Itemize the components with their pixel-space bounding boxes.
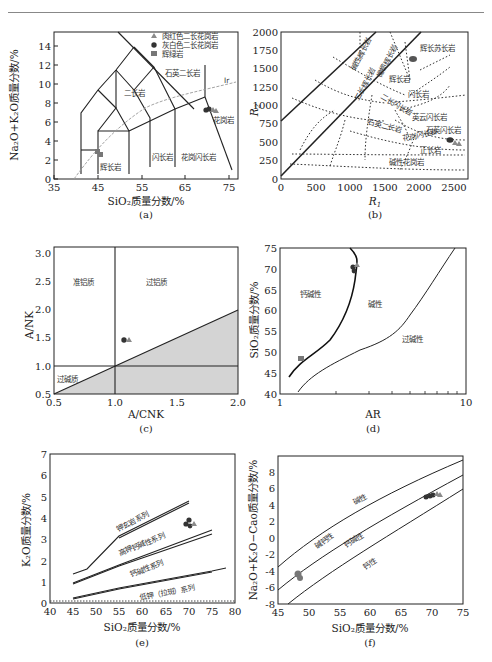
field-label: 橄榄辉长岩 [374, 42, 400, 78]
x-tick: 50 [303, 607, 316, 618]
data-points-a [95, 106, 219, 157]
y-tick: 3 [41, 534, 47, 545]
x-tick: 0 [278, 182, 284, 193]
plot-frame-d [280, 248, 466, 394]
panel-c: 0.5 1.0 1.5 2.0 0.5 1.0 1.5 2.0 2.5 3.0 … [23, 247, 246, 434]
y-tick: 2.5 [35, 276, 51, 287]
x-axis-label: R1 [368, 195, 381, 209]
field-label: 闪长岩 [408, 89, 430, 99]
panel-f: 45 50 55 60 65 70 75 -8 -6 -4 -2 0 2 4 6… [247, 456, 469, 648]
y-tick: 7 [41, 449, 47, 460]
panel-caption: (a) [139, 209, 153, 220]
field-label: 花岗闪长岩 [401, 126, 438, 143]
x-tick: 70 [426, 607, 439, 618]
y-tick: 55 [264, 326, 277, 337]
y-tick: 65 [264, 285, 277, 296]
field-label: Ir [224, 76, 230, 85]
y-tick: 1.5 [35, 332, 51, 343]
field-label: 辉长岩 [389, 74, 411, 84]
y-tick: 1.0 [35, 361, 51, 372]
y-tick: 0.5 [35, 389, 51, 400]
field-label: 钙碱性 [300, 289, 322, 299]
y-tick: 500 [259, 137, 278, 148]
field-label: 过碱性 [402, 334, 424, 344]
y-tick: -6 [265, 582, 275, 593]
x-tick: 1000 [337, 182, 362, 193]
plot-frame-f [278, 456, 463, 604]
figure-panels: 35 45 55 65 75 0 2 4 6 8 10 12 14 [0, 0, 492, 662]
y-tick: 2000 [253, 27, 278, 38]
x-tick: 65 [179, 182, 192, 193]
x-tick: 75 [457, 607, 470, 618]
field-label: 过碱质 [57, 374, 79, 384]
y-tick: 2 [45, 155, 51, 166]
y-tick: 4 [269, 500, 275, 511]
x-tick: 2.0 [230, 397, 246, 408]
panel-caption: (e) [135, 637, 149, 648]
y-tick: 50 [264, 347, 277, 358]
x-tick: 55 [136, 182, 149, 193]
x-tick: 1 [277, 397, 283, 408]
x-tick: 65 [395, 607, 408, 618]
y-tick: 1750 [253, 45, 278, 56]
y-tick: 0 [272, 174, 278, 185]
data-points-d [298, 262, 360, 361]
x-tick: 50 [90, 606, 103, 617]
x-tick: 65 [160, 606, 173, 617]
y-tick: 60 [264, 305, 277, 316]
y-tick: 40 [264, 389, 277, 400]
y-tick: 3.0 [35, 248, 51, 259]
field-label: 花岗闪长岩 [181, 152, 217, 162]
x-tick: 60 [364, 607, 377, 618]
panel-caption: (d) [366, 423, 380, 434]
field-label: 高钾钙碱性系列 [117, 530, 166, 558]
x-tick: 10 [460, 397, 473, 408]
y-tick: 2 [41, 556, 47, 567]
y-tick: 4 [45, 136, 51, 147]
field-label: 辉长苏长岩 [420, 43, 456, 53]
x-tick: 1500 [372, 182, 397, 193]
series-boundaries-e [73, 501, 226, 599]
field-label: 钾玄岩系列 [114, 509, 150, 534]
x-tick: 80 [229, 606, 242, 617]
legend-label: 灰白色二长花岗岩 [162, 40, 219, 50]
y-tick: 2.0 [35, 304, 51, 315]
field-label: 碱性 [368, 299, 383, 309]
panel-d: 1 10 40 45 50 55 60 65 70 75 钙碱性 碱性 过碱性 … [248, 243, 472, 434]
y-axis-label: Na₂O+K₂O质量分数/% [8, 49, 20, 160]
x-tick: 45 [67, 606, 80, 617]
field-label: 过铝质 [146, 277, 168, 287]
x-tick: 70 [183, 606, 196, 617]
legend: 肉红色二长花岗岩 灰白色二长花岗岩 辉绿岩 [151, 31, 219, 59]
x-tick: 75 [223, 182, 236, 193]
y-axis-label: R2 [248, 103, 262, 117]
y-tick: 6 [45, 117, 51, 128]
y-tick: 8 [269, 467, 275, 478]
x-tick: 45 [92, 182, 105, 193]
y-tick: 0 [269, 533, 275, 544]
x-axis-label: SiO₂质量分数/% [332, 622, 409, 634]
legend-label: 肉红色二长花岗岩 [162, 31, 219, 41]
x-tick: 2000 [406, 182, 431, 193]
y-tick: 45 [264, 368, 277, 379]
panel-b: 0 500 1000 1500 2000 2500 0 250 500 750 … [248, 27, 468, 220]
field-label: 准铝质 [73, 277, 95, 287]
legend-label: 辉绿岩 [162, 49, 184, 59]
field-label: 碱性花岗岩 [389, 157, 425, 167]
field-label: 英云闪长岩 [412, 112, 448, 122]
x-tick: 500 [306, 182, 325, 193]
y-axis-label: A/NK [23, 311, 35, 340]
y-tick: 1 [41, 577, 47, 588]
x-axis-label: SiO₂质量分数/% [108, 195, 185, 207]
field-label: 花岗岩 [213, 115, 235, 125]
plot-frame-b [281, 32, 468, 179]
field-label: 闪长岩 [152, 152, 174, 162]
x-tick: 55 [334, 607, 347, 618]
field-label: 石英二长岩 [165, 68, 201, 78]
x-tick: 1.5 [169, 397, 185, 408]
y-tick: 10 [38, 79, 51, 90]
field-label: 二长岩 [124, 88, 146, 98]
y-tick: 12 [38, 60, 51, 71]
panel-a: 35 45 55 65 75 0 2 4 6 8 10 12 14 [8, 31, 238, 220]
x-tick: 2500 [441, 182, 466, 193]
